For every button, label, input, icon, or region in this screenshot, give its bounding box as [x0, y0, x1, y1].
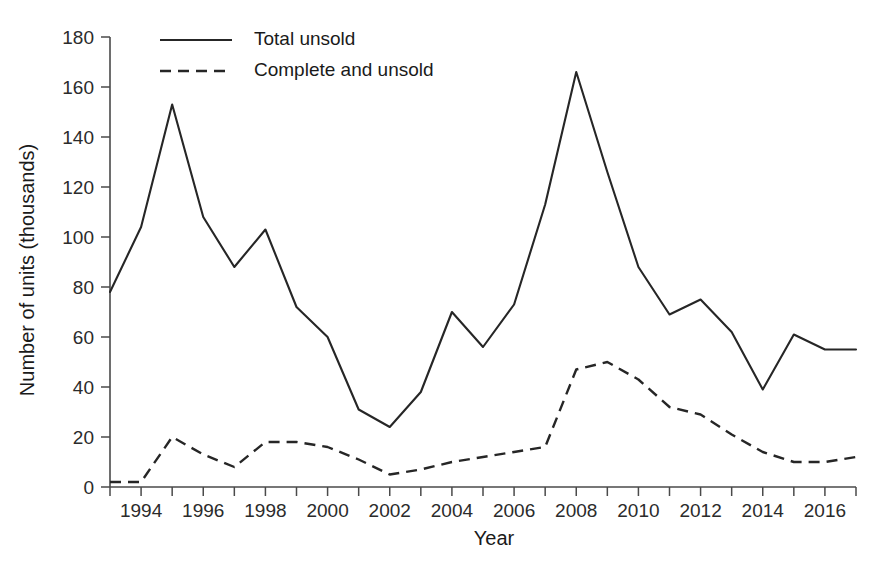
x-tick-label: 1996: [182, 500, 224, 521]
y-tick-label: 180: [62, 27, 94, 48]
y-tick-label: 120: [62, 177, 94, 198]
y-axis-tick-labels: 020406080100120140160180: [62, 27, 94, 498]
series-line-complete-and-unsold: [110, 362, 856, 482]
x-tick-label: 2014: [742, 500, 785, 521]
legend-label: Complete and unsold: [254, 59, 434, 80]
legend-label: Total unsold: [254, 28, 355, 49]
chart-legend: Total unsoldComplete and unsold: [160, 28, 434, 80]
x-tick-label: 1994: [120, 500, 163, 521]
series-line-total-unsold: [110, 72, 856, 427]
y-tick-label: 160: [62, 77, 94, 98]
y-tick-label: 100: [62, 227, 94, 248]
x-tick-label: 2002: [369, 500, 411, 521]
x-tick-label: 2010: [617, 500, 659, 521]
x-tick-label: 1998: [244, 500, 286, 521]
y-axis-title: Number of units (thousands): [16, 144, 38, 396]
x-axis-title: Year: [474, 527, 515, 549]
x-tick-label: 2012: [679, 500, 721, 521]
x-tick-label: 2006: [493, 500, 535, 521]
x-tick-label: 2004: [431, 500, 474, 521]
axis-tick-marks: [101, 37, 856, 496]
y-tick-label: 40: [73, 377, 94, 398]
line-chart: 020406080100120140160180 199419961998200…: [0, 0, 882, 572]
y-tick-label: 60: [73, 327, 94, 348]
x-tick-label: 2016: [804, 500, 846, 521]
y-tick-label: 80: [73, 277, 94, 298]
x-tick-label: 2000: [306, 500, 348, 521]
axis-lines: [110, 37, 856, 487]
data-series-group: [110, 72, 856, 482]
x-tick-label: 2008: [555, 500, 597, 521]
chart-figure: 020406080100120140160180 199419961998200…: [0, 0, 882, 572]
y-tick-label: 0: [83, 477, 94, 498]
y-tick-label: 140: [62, 127, 94, 148]
x-axis-tick-labels: 1994199619982000200220042006200820102012…: [120, 500, 846, 521]
y-tick-label: 20: [73, 427, 94, 448]
